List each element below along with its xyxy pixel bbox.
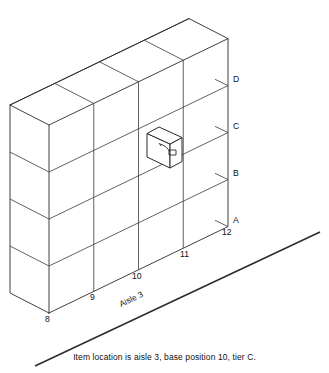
tier-label-d: D xyxy=(233,74,239,84)
diagram-caption: Item location is aisle 3, base position … xyxy=(0,352,329,362)
base-position-label-12: 12 xyxy=(222,227,232,237)
base-position-label-9: 9 xyxy=(90,292,95,302)
base-position-label-11: 11 xyxy=(180,249,189,259)
aisle-label: Aisle 3 xyxy=(118,289,145,309)
rack-diagram: 8 9 10 11 12 D C B A Aisle 3 Item locati… xyxy=(0,0,329,373)
base-position-label-10: 10 xyxy=(132,271,142,281)
tier-label-b: B xyxy=(233,168,239,178)
rack-illustration: 8 9 10 11 12 D C B A Aisle 3 xyxy=(0,0,329,373)
tier-label-c: C xyxy=(233,121,239,131)
base-position-label-8: 8 xyxy=(45,314,50,324)
rack-face-fill xyxy=(10,19,228,313)
tier-labels: D C B A xyxy=(233,74,239,225)
tier-label-a: A xyxy=(233,215,239,225)
aisle-label-group: Aisle 3 xyxy=(118,289,145,309)
